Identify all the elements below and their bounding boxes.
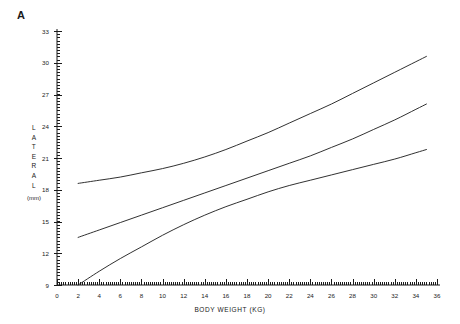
y-tick-label: 15 — [27, 218, 49, 225]
y-tick-label: 9 — [27, 282, 49, 289]
data-line-middle — [78, 104, 426, 237]
y-tick-label: 21 — [27, 155, 49, 162]
x-tick-label: 34 — [406, 292, 426, 299]
x-tick-label: 12 — [174, 292, 194, 299]
x-tick-label: 28 — [343, 292, 363, 299]
y-tick-label: 12 — [27, 250, 49, 257]
x-tick-label: 26 — [321, 292, 341, 299]
y-tick-label: 24 — [27, 123, 49, 130]
plot-area — [0, 0, 460, 324]
x-tick-label: 14 — [195, 292, 215, 299]
x-tick-label: 20 — [258, 292, 278, 299]
x-tick-label: 16 — [216, 292, 236, 299]
x-tick-label: 8 — [131, 292, 151, 299]
x-tick-label: 10 — [153, 292, 173, 299]
x-tick-label: 18 — [237, 292, 257, 299]
y-tick-label: 33 — [27, 28, 49, 35]
x-tick-label: 36 — [427, 292, 447, 299]
x-tick-label: 4 — [89, 292, 109, 299]
y-tick-label: 30 — [27, 59, 49, 66]
x-tick-label: 6 — [110, 292, 130, 299]
x-tick-label: 30 — [364, 292, 384, 299]
x-tick-label: 32 — [385, 292, 405, 299]
data-line-lower — [78, 150, 426, 285]
x-tick-label: 22 — [279, 292, 299, 299]
x-tick-label: 2 — [68, 292, 88, 299]
chart-figure: A L A T E R A L (mm) BODY WEIGHT (KG) 91… — [0, 0, 460, 324]
x-tick-label: 24 — [300, 292, 320, 299]
y-tick-label: 27 — [27, 91, 49, 98]
data-series-group — [78, 56, 426, 285]
x-tick-label: 0 — [47, 292, 67, 299]
y-tick-label: 18 — [27, 186, 49, 193]
